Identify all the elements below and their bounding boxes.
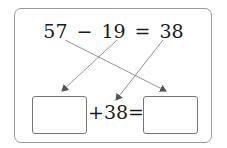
- arrow-57-to-right-blank: [65, 40, 166, 91]
- addend: 38: [104, 101, 128, 123]
- arrow-19-to-left-blank: [62, 40, 117, 91]
- addition-middle: +38=: [88, 101, 144, 123]
- plus-sign: +: [88, 101, 104, 123]
- equals-sign-bottom: =: [128, 101, 144, 123]
- left-blank-box[interactable]: [32, 96, 87, 134]
- arrow-38-to-addend: [116, 40, 163, 100]
- right-blank-box[interactable]: [143, 96, 198, 134]
